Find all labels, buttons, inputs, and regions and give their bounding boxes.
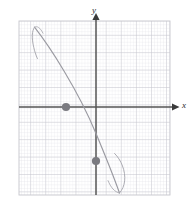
- x-axis-label: x: [182, 101, 186, 110]
- point-x-intercept: [62, 103, 70, 111]
- graph-figure: y x: [0, 0, 194, 208]
- y-axis-label: y: [92, 6, 96, 15]
- coordinate-plane: [0, 0, 194, 208]
- point-y-intercept: [92, 157, 100, 165]
- grid-major: [19, 21, 170, 195]
